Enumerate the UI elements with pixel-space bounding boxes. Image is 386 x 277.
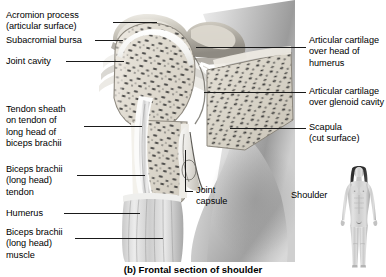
- shoulder-frontal-section-figure: Acromion process (articular surface) Sub…: [0, 0, 386, 277]
- label-subacromial-bursa: Subacromial bursa: [6, 35, 82, 46]
- label-articular-cartilage-humerus: Articular cartilage over head of humerus: [309, 35, 379, 69]
- label-scapula: Scapula (cut surface): [309, 122, 359, 145]
- leader-joint-capsule-stem: [185, 150, 186, 192]
- leader-humerus: [64, 213, 140, 214]
- label-joint-cavity: Joint cavity: [6, 56, 51, 67]
- figure-caption: (b) Frontal section of shoulder: [0, 264, 386, 275]
- leader-articular-cartilage-humerus: [196, 47, 306, 48]
- label-tendon-sheath: Tendon sheath on tendon of long head of …: [6, 104, 66, 150]
- leader-joint-capsule-foot: [185, 191, 193, 192]
- leader-biceps-tendon: [77, 175, 145, 176]
- label-joint-capsule: Joint capsule: [196, 185, 227, 208]
- shoulder-section-illustration: [95, 0, 295, 262]
- leader-scapula: [230, 128, 306, 129]
- label-biceps-brachii-tendon: Biceps brachii (long head) tendon: [6, 164, 63, 198]
- leader-tendon-sheath: [84, 126, 142, 127]
- leader-articular-cartilage-glenoid: [204, 92, 306, 93]
- leader-acromion-process: [113, 22, 157, 23]
- label-biceps-brachii-muscle: Biceps brachii (long head) muscle: [6, 227, 63, 261]
- leader-biceps-muscle: [75, 238, 163, 239]
- leader-joint-cavity: [66, 61, 124, 62]
- label-acromion-process: Acromion process (articular surface): [6, 10, 79, 33]
- label-articular-cartilage-glenoid: Articular cartilage over glenoid cavity: [309, 86, 384, 109]
- leader-subacromial-bursa: [95, 40, 123, 41]
- label-humerus: Humerus: [6, 208, 43, 219]
- label-shoulder: Shoulder: [291, 190, 327, 201]
- whole-body-orientation-figure: [339, 164, 379, 268]
